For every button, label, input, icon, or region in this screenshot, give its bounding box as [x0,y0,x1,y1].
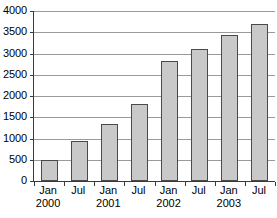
x-axis-label-month: Jul [237,184,277,197]
y-axis-tick-label: 1500 [3,111,27,122]
x-axis-tick-label: Jul [237,184,277,197]
x-axis-tick-labels: Jan2000JulJan2001JulJan2002JulJan2003Jul [33,184,274,218]
bar-chart: 05001000150020002500300035004000 Jan2000… [0,0,277,218]
y-axis-tick-label: 3500 [3,26,27,37]
x-axis-label-year: 2000 [26,197,70,210]
bar [221,35,238,181]
bar-series [34,11,275,181]
y-axis-tick-label: 3000 [3,48,27,59]
x-axis-label-year: 2003 [207,197,251,210]
plot-area [33,11,275,182]
y-axis-tick-label: 2500 [3,69,27,80]
bar [251,24,268,181]
y-axis-tick-label: 4000 [3,5,27,16]
y-axis-tick-label: 1000 [3,133,27,144]
bar [101,124,118,181]
bar [161,61,178,181]
bar [131,104,148,181]
x-axis-label-year: 2002 [147,197,191,210]
y-axis-tick-label: 2000 [3,90,27,101]
x-axis-label-year: 2001 [86,197,130,210]
bar [41,160,58,181]
bar [191,49,208,181]
y-axis-tick-label: 500 [9,154,27,165]
bar [71,141,88,181]
